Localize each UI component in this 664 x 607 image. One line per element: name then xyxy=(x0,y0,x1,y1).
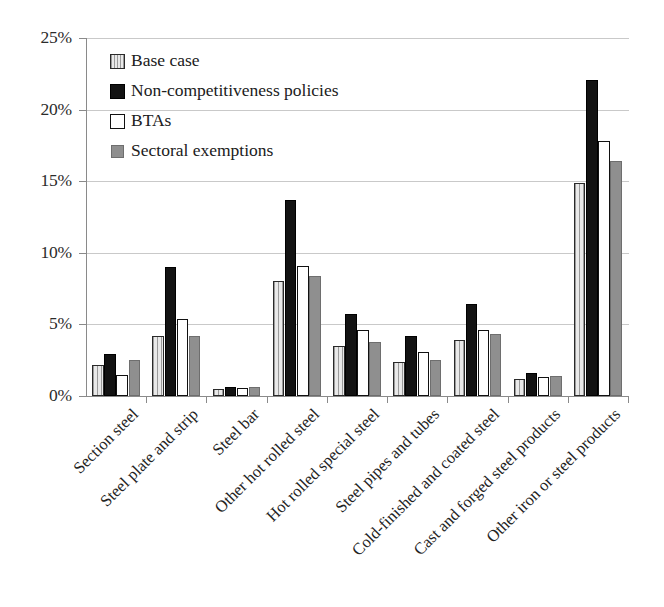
bar-base xyxy=(574,183,586,396)
bar-btas xyxy=(598,141,610,396)
legend-item-label: BTAs xyxy=(131,112,171,130)
bar-noncomp xyxy=(586,80,598,396)
bar-noncomp xyxy=(526,373,538,396)
legend-swatch-icon xyxy=(110,54,125,69)
x-axis-category-label: Steel pipes and tubes xyxy=(333,406,443,516)
legend-item-label: Sectoral exemptions xyxy=(131,142,273,160)
bar-sectoral xyxy=(189,336,201,396)
y-axis-tick-mark xyxy=(79,38,86,39)
legend-swatch-icon xyxy=(110,84,125,99)
bar-sectoral xyxy=(309,276,321,396)
bar-sectoral xyxy=(490,334,502,396)
bar-base xyxy=(213,389,225,396)
x-axis-category-label: Steel bar xyxy=(209,406,262,459)
bar-base xyxy=(393,362,405,396)
chart-legend: Base caseNon-competitiveness policiesBTA… xyxy=(110,46,410,166)
y-axis-tick-mark xyxy=(79,253,86,254)
bar-group xyxy=(568,38,628,396)
bar-noncomp xyxy=(104,354,116,396)
y-axis-tick-mark xyxy=(79,324,86,325)
legend-item-label: Base case xyxy=(131,52,200,70)
bar-group xyxy=(447,38,507,396)
legend-item-label: Non-competitiveness policies xyxy=(131,82,339,100)
legend-item-sectoral[interactable]: Sectoral exemptions xyxy=(110,136,410,166)
bar-sectoral xyxy=(129,360,141,396)
bar-btas xyxy=(237,388,249,396)
legend-item-noncomp[interactable]: Non-competitiveness policies xyxy=(110,76,410,106)
bar-btas xyxy=(116,375,128,396)
y-axis-tick-label: 5% xyxy=(16,315,72,333)
bar-btas xyxy=(478,330,490,396)
legend-item-btas[interactable]: BTAs xyxy=(110,106,410,136)
bar-sectoral xyxy=(249,387,261,396)
bar-base xyxy=(514,379,526,396)
y-axis-tick-mark xyxy=(79,181,86,182)
y-axis-tick-label: 25% xyxy=(16,29,72,47)
bar-sectoral xyxy=(610,161,622,396)
bar-sectoral xyxy=(430,360,442,396)
bar-btas xyxy=(297,266,309,396)
bar-btas xyxy=(177,319,189,396)
bar-base xyxy=(454,340,466,396)
y-axis-tick-mark xyxy=(79,110,86,111)
bar-noncomp xyxy=(225,387,237,396)
legend-swatch-icon xyxy=(110,114,125,129)
bar-noncomp xyxy=(165,267,177,396)
bar-btas xyxy=(538,377,550,396)
x-axis-category-label: Other hot rolled steel xyxy=(212,406,322,516)
bar-noncomp xyxy=(405,336,417,396)
y-axis-tick-label: 15% xyxy=(16,172,72,190)
y-axis-tick-label: 10% xyxy=(16,244,72,262)
legend-swatch-icon xyxy=(111,145,124,158)
bar-sectoral xyxy=(369,342,381,396)
bar-noncomp xyxy=(345,314,357,396)
bar-noncomp xyxy=(466,304,478,396)
y-axis-tick-label: 20% xyxy=(16,101,72,119)
bar-sectoral xyxy=(550,376,562,396)
bar-chart: 0%5%10%15%20%25% Base caseNon-competitiv… xyxy=(0,0,664,607)
bar-noncomp xyxy=(285,200,297,396)
bar-base xyxy=(92,365,104,397)
x-axis-category-label: Hot rolled special steel xyxy=(264,406,383,525)
legend-item-base[interactable]: Base case xyxy=(110,46,410,76)
bar-group xyxy=(508,38,568,396)
bar-btas xyxy=(418,352,430,396)
x-axis-category-labels: Section steelSteel plate and stripSteel … xyxy=(0,396,664,607)
bar-btas xyxy=(357,330,369,396)
bar-base xyxy=(333,346,345,396)
bar-base xyxy=(152,336,164,396)
bar-base xyxy=(273,281,285,396)
